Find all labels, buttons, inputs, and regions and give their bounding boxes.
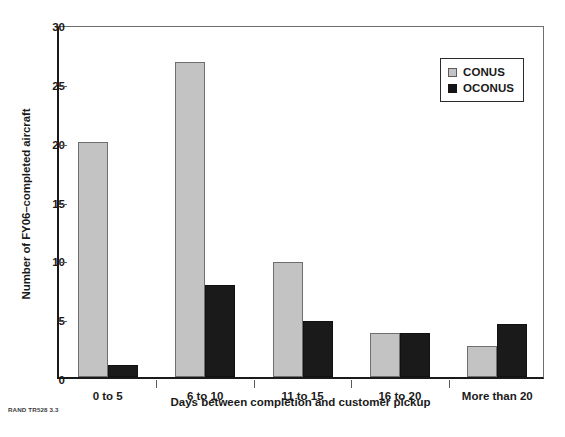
legend-item-conus: CONUS: [448, 64, 514, 80]
y-tick-mark: [59, 86, 67, 87]
bar-conus-1: [175, 62, 205, 377]
y-tick-label: 30: [17, 21, 65, 33]
y-tick-label: 5: [17, 315, 65, 327]
y-tick-label: 25: [17, 80, 65, 92]
x-axis-title: Days between completion and customer pic…: [57, 396, 544, 408]
y-tick-mark: [59, 204, 67, 205]
y-tick-mark: [59, 145, 67, 146]
y-tick-label: 0: [17, 374, 65, 386]
bar-conus-0: [78, 142, 108, 377]
legend-swatch-oconus-icon: [448, 84, 457, 93]
legend-swatch-conus-icon: [448, 68, 457, 77]
x-tick-mark: [449, 380, 450, 388]
legend-label-conus: CONUS: [463, 66, 505, 78]
bar-oconus-1: [205, 285, 235, 377]
bar-conus-2: [273, 262, 303, 377]
bar-oconus-3: [400, 333, 430, 377]
y-tick-label: 20: [17, 139, 65, 151]
legend-label-oconus: OCONUS: [463, 82, 514, 94]
x-tick-mark: [351, 380, 352, 388]
figure-credit: RAND TR528 3.3: [8, 406, 59, 413]
y-tick-label: 10: [17, 256, 65, 268]
y-tick-mark: [59, 262, 67, 263]
bar-oconus-2: [303, 321, 333, 377]
y-tick-label: 15: [17, 198, 65, 210]
bar-oconus-0: [108, 365, 138, 377]
bar-conus-3: [370, 333, 400, 377]
y-tick-mark: [59, 321, 67, 322]
bar-conus-4: [467, 346, 497, 377]
legend: CONUS OCONUS: [440, 58, 524, 102]
x-tick-mark: [156, 380, 157, 388]
x-tick-mark: [254, 380, 255, 388]
bar-chart-figure: Number of FY06–completed aircraft 051015…: [0, 0, 565, 437]
bar-oconus-4: [497, 324, 527, 377]
legend-item-oconus: OCONUS: [448, 80, 514, 96]
